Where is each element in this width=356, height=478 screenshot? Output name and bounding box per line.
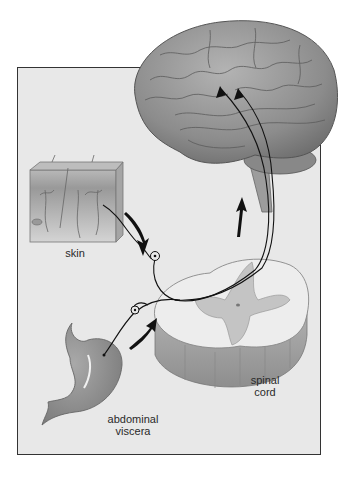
- ganglion-viscera: [131, 306, 139, 314]
- label-spinal: spinal: [245, 374, 285, 386]
- stomach: [42, 323, 122, 425]
- label-abdominal-viscera: abdominal viscera: [103, 413, 163, 437]
- label-abdominal: abdominal: [103, 413, 163, 425]
- arrow-up-icon: [236, 197, 247, 237]
- label-spinal-cord: spinal cord: [245, 374, 285, 398]
- anatomy-illustration: [0, 0, 356, 478]
- brain: [135, 21, 338, 212]
- label-skin: skin: [60, 247, 90, 259]
- arrow-up-right-icon: [129, 318, 157, 350]
- ganglion-skin: [151, 252, 160, 261]
- label-viscera: viscera: [103, 425, 163, 437]
- skin-block: [30, 155, 123, 242]
- label-cord: cord: [245, 386, 285, 398]
- spinal-cord: [154, 259, 308, 388]
- arrow-down-icon: [124, 212, 149, 256]
